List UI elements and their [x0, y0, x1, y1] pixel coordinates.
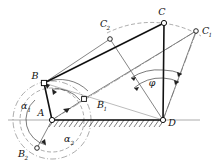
phi-arc-left	[131, 70, 163, 78]
svg-text:2: 2	[70, 140, 75, 146]
svg-text:1: 1	[28, 107, 32, 113]
alpha1-arc-inner	[52, 89, 80, 100]
joint-C	[161, 20, 166, 25]
label-alpha2: α 2	[64, 133, 75, 146]
construction-arcs	[13, 22, 201, 159]
centerline-A-C1	[52, 31, 196, 120]
label-D: D	[167, 117, 176, 128]
label-A: A	[37, 107, 45, 118]
svg-text:2: 2	[24, 155, 29, 161]
joint-D	[160, 117, 165, 122]
label-C2: C 2	[100, 18, 111, 31]
joint-C1	[194, 29, 199, 34]
link-A-B	[44, 83, 52, 120]
joint-C2	[108, 37, 113, 42]
alternate-position-links	[37, 31, 196, 148]
ground-hatching	[49, 120, 164, 127]
label-C1: C 1	[202, 25, 212, 38]
svg-text:2: 2	[106, 25, 111, 31]
svg-text:1: 1	[209, 32, 213, 38]
label-alpha1: α 1	[21, 100, 31, 113]
link-C-D	[163, 23, 164, 120]
link-B-C	[44, 23, 164, 83]
joint-B1	[82, 97, 87, 102]
label-phi: φ	[149, 77, 156, 88]
phi-arrowheads	[131, 72, 182, 91]
ground-link-AD	[49, 120, 164, 127]
svg-text:1: 1	[104, 106, 108, 112]
joint-A	[49, 117, 54, 122]
linkage-diagram: A B C D B 1 B 2 C 1 C 2 α 1 α 2 φ	[0, 0, 223, 167]
joint-markers	[35, 20, 199, 150]
label-B: B	[31, 70, 39, 81]
joint-B2	[35, 146, 40, 151]
link-B-C2	[44, 39, 110, 83]
rocker-arc-C	[107, 22, 201, 36]
joint-B	[41, 80, 46, 85]
label-C: C	[158, 6, 166, 17]
label-B1: B 1	[96, 99, 107, 112]
phi-angle-group	[131, 70, 182, 88]
